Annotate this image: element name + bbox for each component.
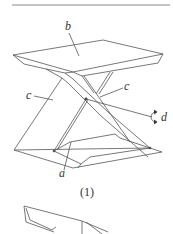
label-a: a — [59, 167, 65, 179]
pivot-axis — [85, 98, 152, 117]
second-figure-partial — [24, 206, 108, 234]
leg-c-front — [14, 69, 150, 157]
leader-c-left — [34, 96, 53, 100]
figure-caption: (1) — [80, 186, 94, 198]
leg-c-back — [82, 72, 130, 142]
label-c-left: c — [26, 89, 31, 101]
label-d: d — [161, 111, 167, 123]
tabletop-b — [13, 40, 163, 76]
leader-c-right — [100, 88, 123, 97]
label-b: b — [65, 20, 71, 32]
label-c-right: c — [124, 80, 129, 92]
